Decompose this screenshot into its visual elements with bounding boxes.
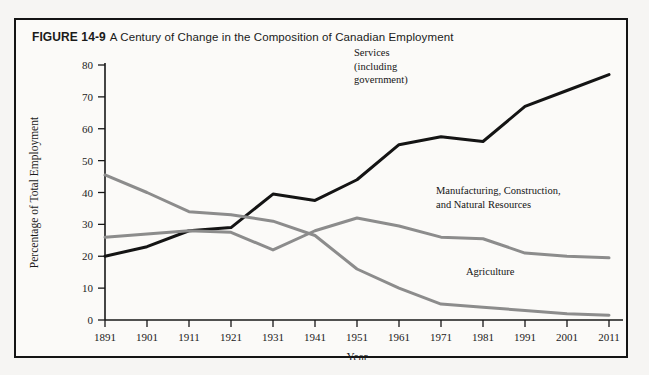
series-label-manufacturing: and Natural Resources	[436, 199, 531, 210]
x-axis-tick-label: 1981	[472, 331, 494, 343]
x-axis-tick-label: 1991	[514, 331, 536, 343]
x-axis-tick-label: 1941	[304, 331, 326, 343]
series-line-1	[105, 218, 609, 258]
x-axis-tick-label: 1961	[388, 331, 410, 343]
y-axis-tick-label: 70	[82, 91, 94, 103]
y-axis-tick-label: 10	[82, 282, 94, 294]
series-label-services: (including	[354, 61, 398, 73]
chart-plot-area: 01020304050607080Percentage of Total Emp…	[16, 20, 630, 360]
series-label-agriculture: Agriculture	[466, 266, 515, 277]
series-label-services: government)	[354, 74, 408, 86]
series-line-0	[105, 75, 609, 257]
line-chart: 01020304050607080Percentage of Total Emp…	[16, 20, 630, 360]
y-axis-tick-label: 20	[82, 250, 94, 262]
y-axis-tick-label: 50	[82, 155, 94, 167]
x-axis-tick-label: 2001	[556, 331, 578, 343]
y-axis-tick-label: 0	[88, 314, 94, 326]
y-axis-tick-label: 30	[82, 218, 94, 230]
page-background: FIGURE 14-9A Century of Change in the Co…	[0, 0, 649, 375]
y-axis-tick-label: 40	[82, 187, 94, 199]
x-axis-title: Year	[346, 351, 367, 360]
x-axis-tick-label: 1951	[346, 331, 368, 343]
x-axis-tick-label: 1921	[220, 331, 242, 343]
x-axis-tick-label: 2011	[598, 331, 620, 343]
figure-frame: FIGURE 14-9A Century of Change in the Co…	[14, 18, 628, 358]
x-axis: 1891190119111921193119411951196119711981…	[94, 320, 623, 360]
series-label-services: Services	[354, 47, 390, 58]
series-line-2	[105, 175, 609, 315]
x-axis-tick-label: 1901	[136, 331, 158, 343]
y-axis-tick-label: 80	[82, 59, 94, 71]
y-axis-tick-label: 60	[82, 123, 94, 135]
y-axis-title: Percentage of Total Employment	[28, 116, 41, 268]
series-annotations: Services(includinggovernment)Manufacturi…	[354, 47, 561, 277]
y-axis: 01020304050607080Percentage of Total Emp…	[28, 59, 105, 326]
x-axis-tick-label: 1971	[430, 331, 452, 343]
series-label-manufacturing: Manufacturing, Construction,	[436, 185, 561, 196]
x-axis-tick-label: 1911	[178, 331, 200, 343]
x-axis-tick-label: 1931	[262, 331, 284, 343]
x-axis-tick-label: 1891	[94, 331, 116, 343]
